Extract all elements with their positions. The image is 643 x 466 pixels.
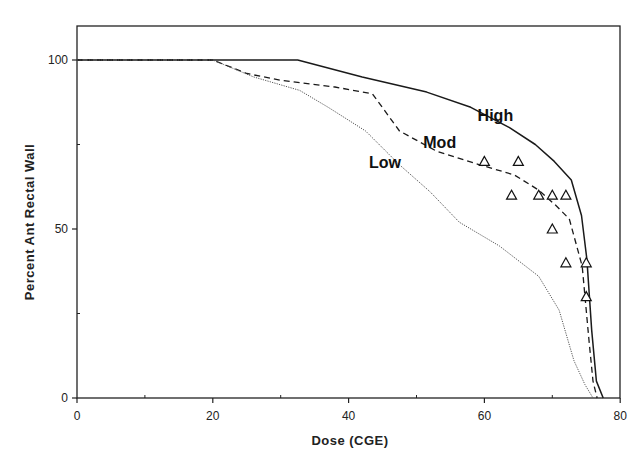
triangle-markers	[479, 156, 591, 300]
curve-low	[77, 60, 593, 398]
curve-label-low: Low	[369, 154, 402, 171]
curve-high	[77, 60, 603, 398]
plot-frame	[77, 26, 620, 398]
triangle-marker	[534, 190, 544, 199]
curve-label-high: High	[478, 107, 514, 124]
y-axis-label: Percent Ant Rectal Wall	[22, 144, 37, 300]
curves	[77, 60, 603, 398]
triangle-marker	[507, 190, 517, 199]
y-tick-label: 50	[55, 222, 69, 236]
x-tick-label: 80	[614, 409, 628, 423]
curve-mod	[77, 60, 597, 398]
triangle-marker	[547, 224, 557, 233]
x-axis-label: Dose (CGE)	[311, 433, 388, 448]
triangle-marker	[581, 258, 591, 267]
triangle-marker	[561, 258, 571, 267]
triangle-marker	[513, 156, 523, 165]
y-tick-label: 100	[48, 53, 68, 67]
dose-volume-chart: 020406080050100 HighModLow Dose (CGE) Pe…	[0, 0, 643, 466]
axis-ticks: 020406080050100	[48, 53, 627, 423]
triangle-marker	[561, 190, 571, 199]
x-tick-label: 60	[478, 409, 492, 423]
triangle-marker	[547, 190, 557, 199]
curve-label-mod: Mod	[423, 134, 456, 151]
x-tick-label: 20	[206, 409, 220, 423]
curve-labels: HighModLow	[369, 107, 513, 171]
x-tick-label: 0	[74, 409, 81, 423]
x-tick-label: 40	[342, 409, 356, 423]
y-tick-label: 0	[61, 391, 68, 405]
triangle-marker	[479, 156, 489, 165]
